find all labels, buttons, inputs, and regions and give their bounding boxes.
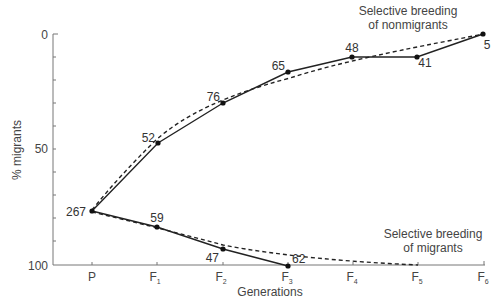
label-n6: 5 — [484, 38, 491, 52]
annotation-nonmigrants-1: Selective breeding — [359, 4, 458, 18]
label-m3: 62 — [292, 252, 306, 266]
y-tick-50: 50 — [35, 142, 49, 156]
point-p — [89, 208, 94, 213]
x-tick-f2: F2 — [215, 270, 226, 285]
label-n1: 52 — [142, 131, 156, 145]
point-mig-f3 — [285, 263, 290, 268]
x-tick-f5: F5 — [411, 270, 422, 285]
y-axis-title: % migrants — [10, 120, 24, 180]
point-nonmig-f2 — [220, 100, 225, 105]
y-tick-0: 0 — [41, 28, 48, 42]
label-n2: 76 — [207, 90, 221, 104]
point-nonmig-f4 — [349, 54, 354, 59]
annotation-migrants-2: of migrants — [403, 241, 462, 255]
point-mig-f1 — [154, 224, 159, 229]
x-tick-p: P — [88, 270, 96, 284]
label-m2: 47 — [206, 251, 220, 265]
y-axis — [53, 34, 58, 265]
chart-canvas: 0 50 100 % migrants P F1 F2 F3 F4 F5 F6 … — [0, 0, 501, 307]
label-m1: 59 — [150, 211, 164, 225]
annotation-nonmigrants-2: of nonmigrants — [368, 18, 447, 32]
x-tick-f3: F3 — [281, 270, 292, 285]
label-p: 267 — [66, 205, 86, 219]
x-tick-labels: P F1 F2 F3 F4 F5 F6 — [88, 270, 489, 285]
x-tick-f6: F6 — [477, 270, 488, 285]
x-axis-title: Generations — [237, 285, 302, 299]
point-mig-f2 — [220, 246, 225, 251]
point-nonmig-f3 — [285, 69, 290, 74]
point-nonmig-f1 — [155, 140, 160, 145]
x-tick-f4: F4 — [346, 270, 357, 285]
label-n3: 65 — [272, 59, 286, 73]
annotation-migrants-1: Selective breeding — [384, 227, 483, 241]
label-n4: 48 — [345, 41, 359, 55]
y-tick-100: 100 — [28, 259, 48, 273]
point-nonmig-f6 — [480, 31, 485, 36]
label-n5: 41 — [418, 56, 432, 70]
x-tick-f1: F1 — [149, 270, 160, 285]
